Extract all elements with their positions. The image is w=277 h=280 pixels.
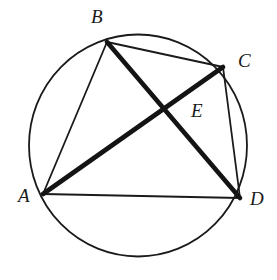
diagonal-bd xyxy=(107,42,240,198)
point-label-d: D xyxy=(250,189,264,208)
segment-ad xyxy=(43,194,240,198)
circle-and-quadrilateral-figure xyxy=(0,0,277,280)
circumscribed-circle xyxy=(29,35,247,257)
point-label-e: E xyxy=(191,101,203,120)
geometry-diagram: A B C D E xyxy=(0,0,277,280)
point-label-a: A xyxy=(18,186,30,205)
point-label-c: C xyxy=(238,51,251,70)
point-label-b: B xyxy=(91,7,103,26)
